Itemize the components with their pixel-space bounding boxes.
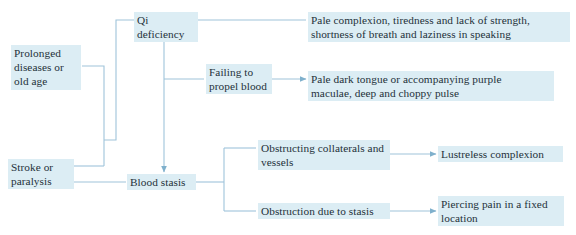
node-stroke-paralysis: Stroke or paralysis — [8, 159, 74, 189]
node-obstruction-due-to-stasis: Obstruction due to stasis — [258, 203, 390, 219]
node-obstructing-collaterals: Obstructing collaterals and vessels — [258, 140, 390, 170]
edge-prolonged-to-junction — [82, 66, 104, 140]
node-lustreless-complexion: Lustreless complexion — [438, 146, 563, 162]
node-failing-to-propel-blood: Failing to propel blood — [206, 64, 272, 94]
node-pale-dark-tongue: Pale dark tongue or accompanying purple … — [308, 71, 554, 101]
edge-junction-to-qi — [104, 20, 134, 140]
node-blood-stasis: Blood stasis — [127, 174, 196, 190]
node-prolonged-diseases: Prolonged diseases or old age — [11, 45, 81, 90]
node-qi-deficiency: Qi deficiency — [134, 12, 198, 42]
node-piercing-pain: Piercing pain in a fixed location — [438, 196, 564, 226]
flowchart-diagram: Prolonged diseases or old age Stroke or … — [0, 0, 576, 235]
node-pale-complexion: Pale complexion, tiredness and lack of s… — [308, 12, 570, 42]
